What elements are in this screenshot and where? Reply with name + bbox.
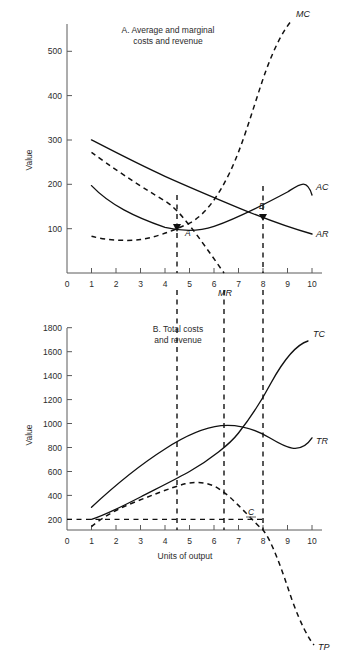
curve-label-mc: MC — [296, 9, 310, 19]
panel-a-x-ticks — [92, 268, 313, 273]
panel-a-xtick-9: 9 — [285, 279, 290, 289]
point-label-a: A — [184, 228, 191, 238]
curve-label-tr: TR — [316, 436, 328, 446]
panel-b-xtick-3: 3 — [138, 536, 143, 546]
panel-b-y-ticks — [67, 328, 72, 520]
panel-b-xtick-7: 7 — [236, 536, 241, 546]
panel-a-title-line2: costs and revenue — [133, 36, 203, 46]
panel-b-ytick-1400: 1400 — [43, 371, 62, 381]
panel-a-ytick-200: 200 — [48, 179, 62, 189]
panel-b-x-tick-labels: 0 1 2 3 4 5 6 7 8 9 10 — [65, 536, 317, 546]
panel-b-ytick-1000: 1000 — [43, 419, 62, 429]
curve-tc — [92, 341, 309, 519]
panel-a-xtick-0: 0 — [65, 279, 70, 289]
curve-tr — [92, 425, 313, 507]
panel-a-xtick-7: 7 — [236, 279, 241, 289]
curve-ar — [92, 140, 313, 234]
panel-a-ytick-500: 500 — [48, 46, 62, 56]
figure-svg: 100 200 300 400 500 0 1 — [0, 0, 349, 657]
panel-b-xtick-9: 9 — [285, 536, 290, 546]
panel-a-xtick-5: 5 — [187, 279, 192, 289]
panel-a-title-line1: A. Average and marginal — [122, 25, 215, 35]
panel-a-xtick-6: 6 — [212, 279, 217, 289]
panel-a-y-tick-labels: 100 200 300 400 500 — [48, 46, 62, 233]
panel-a-xtick-10: 10 — [307, 279, 317, 289]
panel-a-y-axis-title: Value — [24, 149, 34, 170]
panel-a: 100 200 300 400 500 0 1 — [24, 9, 329, 298]
panel-b-xtick-1: 1 — [89, 536, 94, 546]
panel-a-ytick-400: 400 — [48, 91, 62, 101]
panel-b-title-line2: and revenue — [154, 335, 202, 345]
panel-b-ytick-200: 200 — [48, 515, 62, 525]
panel-a-x-tick-labels: 0 1 2 3 4 5 6 7 8 9 10 — [65, 279, 317, 289]
panel-a-xtick-8: 8 — [261, 279, 266, 289]
panel-b-title-line1: B. Total costs — [153, 324, 203, 334]
economics-cost-revenue-figure: 100 200 300 400 500 0 1 — [0, 0, 349, 657]
panel-b-ytick-1800: 1800 — [43, 323, 62, 333]
curve-label-tc: TC — [313, 329, 325, 339]
panel-b-ytick-600: 600 — [48, 467, 62, 477]
panel-b-xtick-0: 0 — [65, 536, 70, 546]
curve-label-ac: AC — [315, 182, 329, 192]
panel-a-xtick-2: 2 — [114, 279, 119, 289]
panel-b-y-tick-labels: 200 400 600 800 1000 1200 1400 1600 1800 — [43, 323, 62, 525]
curve-label-mr: MR — [218, 288, 232, 298]
panel-a-y-ticks — [67, 51, 72, 228]
panel-b-ytick-1600: 1600 — [43, 347, 62, 357]
panel-a-xtick-1: 1 — [89, 279, 94, 289]
panel-b-x-ticks — [92, 525, 313, 530]
curve-label-tp: TP — [318, 642, 330, 652]
curve-tp — [92, 482, 315, 645]
panel-b-x-axis-title: Units of output — [158, 551, 213, 561]
panel-b-xtick-6: 6 — [212, 536, 217, 546]
panel-b-xtick-2: 2 — [114, 536, 119, 546]
panel-b: 200 400 600 800 1000 1200 1400 1600 1800 — [24, 323, 330, 652]
panel-b-y-axis-title: Value — [24, 424, 34, 445]
panel-a-ytick-100: 100 — [48, 224, 62, 234]
point-label-b: B — [259, 201, 265, 211]
panel-a-xtick-3: 3 — [138, 279, 143, 289]
panel-b-ytick-400: 400 — [48, 491, 62, 501]
panel-b-xtick-10: 10 — [307, 536, 317, 546]
panel-b-xtick-5: 5 — [187, 536, 192, 546]
panel-a-xtick-4: 4 — [163, 279, 168, 289]
curve-label-ar: AR — [315, 229, 329, 239]
panel-b-xtick-8: 8 — [261, 536, 266, 546]
panel-b-xtick-4: 4 — [163, 536, 168, 546]
panel-a-ytick-300: 300 — [48, 135, 62, 145]
panel-b-ytick-800: 800 — [48, 443, 62, 453]
panel-b-annotation-c: C — [246, 507, 256, 517]
panel-b-ytick-1200: 1200 — [43, 395, 62, 405]
point-label-c: C — [248, 507, 255, 517]
